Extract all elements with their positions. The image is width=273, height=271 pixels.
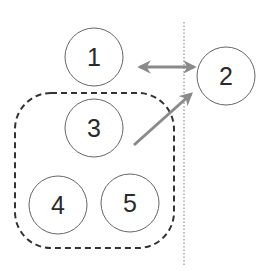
- diagram-canvas: 1 2 3 4 5: [0, 0, 273, 271]
- node-5: 5: [101, 174, 159, 232]
- node-1: 1: [65, 28, 123, 86]
- node-4: 4: [29, 176, 87, 234]
- node-label: 3: [87, 114, 101, 142]
- node-3: 3: [65, 99, 123, 157]
- node-label: 4: [51, 191, 65, 219]
- node-2: 2: [197, 47, 255, 105]
- node-label: 2: [219, 62, 233, 90]
- node-label: 5: [123, 189, 137, 217]
- node-label: 1: [87, 43, 101, 71]
